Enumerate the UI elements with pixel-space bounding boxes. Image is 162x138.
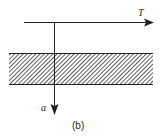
horizontal-axis-arrow	[24, 19, 154, 27]
diagram-canvas	[0, 0, 162, 138]
horizontal-axis-label: T	[138, 8, 144, 18]
hatched-layer	[9, 53, 153, 85]
vertical-axis-label: a	[41, 103, 46, 113]
figure-caption: (b)	[72, 121, 84, 131]
